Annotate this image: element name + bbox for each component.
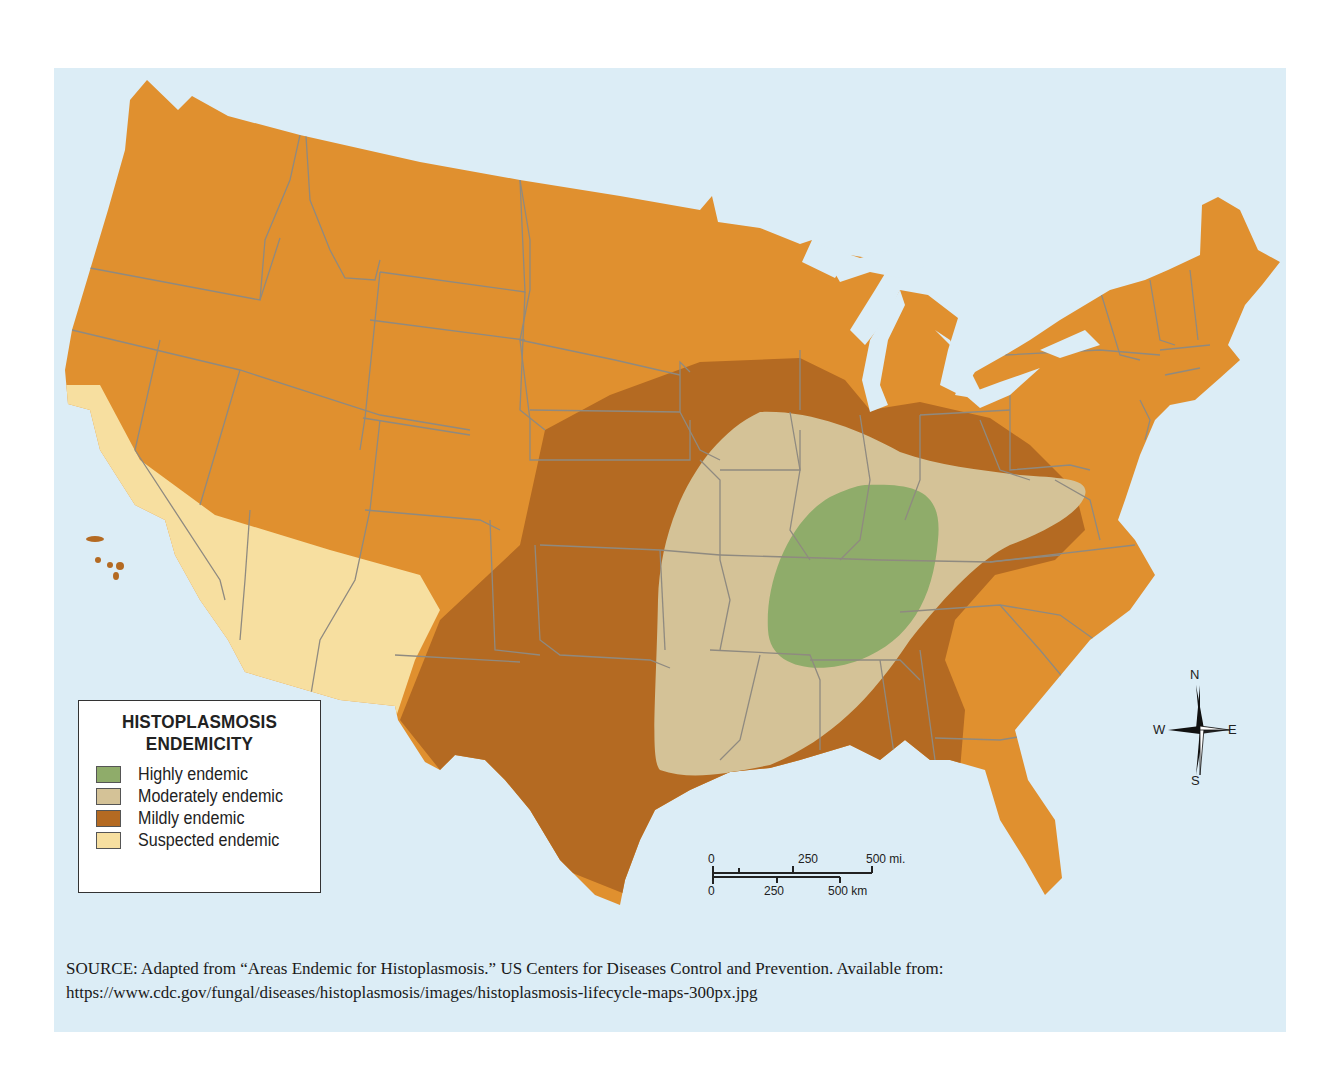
channel-islands	[86, 536, 124, 580]
legend-item-moderately-endemic: Moderately endemic	[96, 785, 320, 807]
swatch-highly-endemic	[96, 766, 121, 783]
source-citation: SOURCE: Adapted from “Areas Endemic for …	[66, 957, 1266, 1005]
swatch-moderately-endemic	[96, 788, 121, 805]
swatch-suspected-endemic	[96, 832, 121, 849]
swatch-mildly-endemic	[96, 810, 121, 827]
source-url: https://www.cdc.gov/fungal/diseases/hist…	[66, 981, 1266, 1005]
compass-star-icon	[1150, 665, 1250, 795]
us-map	[0, 0, 1338, 1076]
compass-rose: N W E S	[1150, 665, 1250, 795]
legend: HISTOPLASMOSIS ENDEMICITY Highly endemic…	[78, 700, 321, 893]
legend-item-mildly-endemic: Mildly endemic	[96, 807, 320, 829]
scale-bar: 0 250 500 mi. 0 250 500 km	[706, 852, 906, 902]
legend-item-highly-endemic: Highly endemic	[96, 763, 320, 785]
legend-item-suspected-endemic: Suspected endemic	[96, 829, 320, 851]
legend-title: HISTOPLASMOSIS ENDEMICITY	[91, 711, 308, 755]
